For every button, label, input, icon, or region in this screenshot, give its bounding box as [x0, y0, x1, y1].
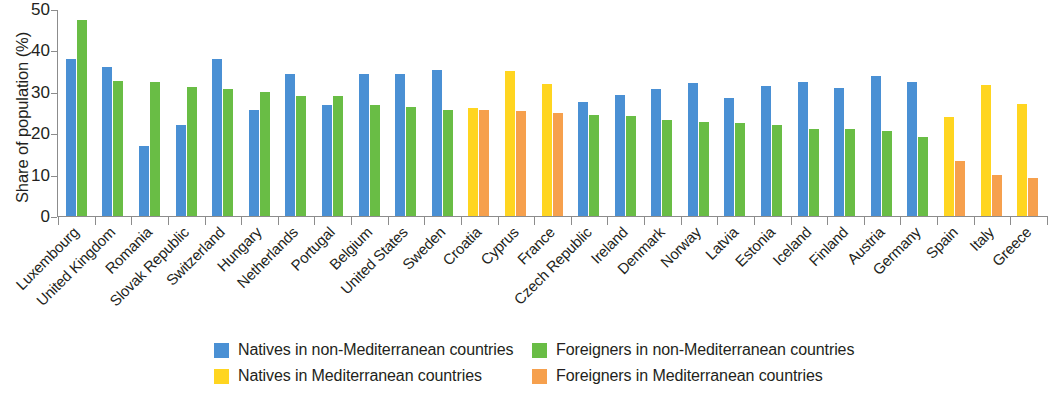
bar	[944, 117, 954, 216]
bar	[651, 89, 661, 216]
y-axis-tick-label: 0	[41, 207, 50, 227]
y-axis-tick-mark	[51, 134, 57, 135]
bar	[735, 123, 745, 216]
legend-label: Foreigners in Mediterranean countries	[556, 367, 823, 385]
x-axis-tick-mark	[205, 217, 206, 225]
bar	[761, 86, 771, 216]
x-axis-tick-mark	[571, 217, 572, 225]
bar-group	[351, 10, 388, 216]
bar-group	[424, 10, 461, 216]
bar	[66, 59, 76, 216]
legend-item[interactable]: Foreigners in non-Mediterranean countrie…	[532, 341, 994, 359]
x-axis-tick	[241, 217, 278, 225]
x-axis-tick-mark	[461, 217, 462, 225]
x-axis-tick	[424, 217, 461, 225]
bar	[223, 89, 233, 216]
x-axis-tick	[461, 217, 498, 225]
x-axis-tick-mark	[241, 217, 242, 225]
legend-item[interactable]: Natives in Mediterranean countries	[214, 367, 532, 385]
legend-swatch-blue	[214, 343, 229, 358]
x-axis-tick	[351, 217, 388, 225]
bar	[992, 175, 1002, 216]
bar	[1017, 104, 1027, 216]
legend-item[interactable]: Natives in non-Mediterranean countries	[214, 341, 532, 359]
bar	[809, 129, 819, 216]
bar	[871, 76, 881, 216]
x-axis-tick	[827, 217, 864, 225]
bar-group	[863, 10, 900, 216]
x-axis-tick-mark	[754, 217, 755, 225]
x-axis-tick-mark	[351, 217, 352, 225]
x-axis-tick	[131, 217, 168, 225]
bar	[955, 161, 965, 216]
bar	[150, 82, 160, 216]
bar-group	[826, 10, 863, 216]
x-axis-tick	[498, 217, 535, 225]
legend-label: Foreigners in non-Mediterranean countrie…	[556, 341, 854, 359]
x-axis-tick-mark	[131, 217, 132, 225]
chart-legend: Natives in non-Mediterranean countriesFo…	[214, 337, 994, 389]
bar	[113, 81, 123, 216]
bar	[249, 110, 259, 216]
y-axis-tick-mark	[51, 217, 57, 218]
legend-swatch-yellow	[214, 369, 229, 384]
bar	[834, 88, 844, 216]
x-axis-tick	[205, 217, 242, 225]
bar-group	[680, 10, 717, 216]
bar	[187, 87, 197, 216]
bar	[333, 96, 343, 216]
x-axis-tick	[681, 217, 718, 225]
bar-group	[644, 10, 681, 216]
bar-group	[753, 10, 790, 216]
bar	[918, 137, 928, 216]
bar-group	[241, 10, 278, 216]
x-axis-tick	[900, 217, 937, 225]
x-axis-tick-mark	[498, 217, 499, 225]
bar-group	[790, 10, 827, 216]
bar-group	[58, 10, 95, 216]
y-axis-tick-mark	[51, 93, 57, 94]
bar-group	[900, 10, 937, 216]
x-axis-tick-mark	[424, 217, 425, 225]
y-axis-tick-mark	[51, 176, 57, 177]
bar	[359, 74, 369, 216]
bar	[553, 113, 563, 216]
bar	[882, 131, 892, 216]
grouped-bar-chart: Share of population (%) 01020304050 Luxe…	[0, 0, 1052, 393]
bar	[406, 107, 416, 216]
x-axis-tick	[1010, 217, 1047, 225]
bar	[662, 120, 672, 216]
bar	[578, 102, 588, 216]
bar	[626, 116, 636, 216]
bar	[699, 122, 709, 216]
x-axis-tick-mark	[681, 217, 682, 225]
legend-label: Natives in Mediterranean countries	[238, 367, 482, 385]
legend-item[interactable]: Foreigners in Mediterranean countries	[532, 367, 994, 385]
y-axis-title: Share of population (%)	[13, 8, 32, 228]
x-axis-tick	[534, 217, 571, 225]
x-axis-tick	[644, 217, 681, 225]
bar-group	[497, 10, 534, 216]
x-axis-tick-mark	[278, 217, 279, 225]
x-axis-tick	[864, 217, 901, 225]
bar	[432, 70, 442, 216]
x-axis-tick-mark	[314, 217, 315, 225]
bar	[1028, 178, 1038, 217]
x-axis-tick-mark	[607, 217, 608, 225]
bar	[907, 82, 917, 216]
bar	[260, 92, 270, 216]
bar-group	[168, 10, 205, 216]
bar	[296, 96, 306, 216]
x-axis-tick-mark	[388, 217, 389, 225]
bar-group	[387, 10, 424, 216]
bar	[516, 111, 526, 216]
bar-group	[461, 10, 498, 216]
x-axis-labels: LuxembourgUnited KingdomRomaniaSlovak Re…	[58, 226, 1047, 326]
bar-group	[95, 10, 132, 216]
bar-group	[717, 10, 754, 216]
x-axis-tick	[717, 217, 754, 225]
bar	[77, 20, 87, 216]
bar-group	[607, 10, 644, 216]
legend-label: Natives in non-Mediterranean countries	[238, 341, 513, 359]
x-axis-tick-mark	[534, 217, 535, 225]
